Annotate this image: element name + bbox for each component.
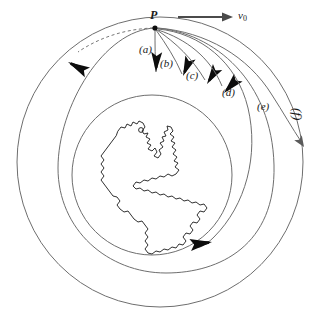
outer-orbit-direction-arrowhead: [65, 57, 90, 77]
figure-canvas: [0, 0, 331, 323]
americas-landmass: [101, 121, 207, 254]
velocity-subscript: 0: [243, 14, 247, 23]
velocity-vector-arrowhead: [222, 13, 233, 22]
velocity-vector-label: v0: [238, 10, 247, 21]
newton-cannonball-figure: P v0 (a) (b) (c) (d) (e) (f): [0, 0, 331, 323]
trajectory-f-arrowhead: [294, 135, 308, 149]
trajectory-label-c: (c): [186, 70, 198, 81]
trajectory-label-e: (e): [257, 101, 269, 112]
earth-globe: [72, 95, 232, 255]
trajectory-label-d: (d): [222, 87, 235, 98]
launch-point-dot: [152, 25, 157, 30]
trajectory-label-f: (f): [291, 108, 304, 120]
trajectory-label-a: (a): [139, 44, 152, 55]
trajectory-label-b: (b): [160, 58, 173, 69]
launch-point-label: P: [150, 9, 157, 21]
